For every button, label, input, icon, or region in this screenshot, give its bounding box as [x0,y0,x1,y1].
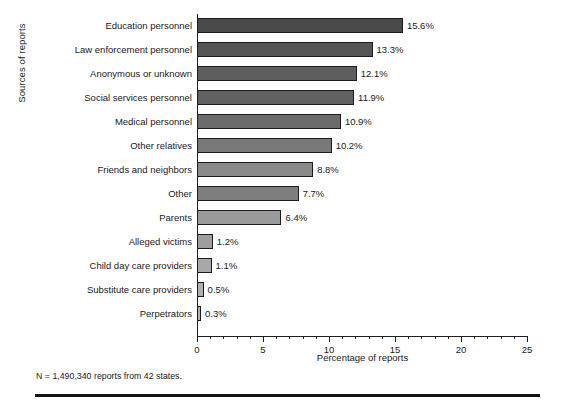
bar [197,282,204,297]
bar-value-label: 0.5% [204,282,230,297]
bar-value-label: 10.9% [341,114,372,129]
bar [197,234,213,249]
category-label: Other relatives [130,134,192,158]
bar [197,258,212,273]
category-label: Child day care providers [90,254,192,278]
bar [197,162,313,177]
category-label: Other [168,182,192,206]
y-axis-title: Sources of reports [11,0,33,143]
bar [197,114,341,129]
bar-value-label: 11.9% [354,90,384,105]
bar-value-label: 10.2% [332,138,363,153]
category-label: Education personnel [105,14,192,38]
x-tick-minor [303,336,304,339]
x-axis-title: Percentage of reports [197,352,528,363]
bar-value-label: 6.4% [281,210,307,225]
bar-value-label: 12.1% [357,66,388,81]
x-tick-major [395,336,396,342]
x-tick-minor [421,336,422,339]
x-tick-major [527,336,528,342]
bar [197,42,373,57]
bar [197,18,403,33]
x-tick-minor [223,336,224,339]
bar-value-label: 0.3% [201,306,227,321]
x-tick-minor [448,336,449,339]
x-tick-minor [435,336,436,339]
bottom-rule-divider [35,394,540,397]
x-tick-minor [514,336,515,339]
bar [197,138,332,153]
category-label: Perpetrators [140,302,192,326]
bar [197,66,357,81]
x-tick-minor [369,336,370,339]
x-tick-major [329,336,330,342]
x-tick-minor [250,336,251,339]
x-axis-line [197,336,528,337]
x-tick-major [461,336,462,342]
chart-figure: Sources of reports 15.6%13.3%12.1%11.9%1… [0,0,567,402]
bar-value-label: 7.7% [299,186,325,201]
bar-value-label: 8.8% [313,162,339,177]
x-tick-minor [342,336,343,339]
category-label: Medical personnel [115,110,192,134]
category-label: Substitute care providers [87,278,192,302]
x-tick-minor [355,336,356,339]
x-tick-major [197,336,198,342]
bar-value-label: 15.6% [403,18,434,33]
bar-value-label: 1.2% [213,234,239,249]
bar-value-label: 1.1% [212,258,238,273]
plot-area: 15.6%13.3%12.1%11.9%10.9%10.2%8.8%7.7%6.… [197,14,527,336]
x-tick-minor [408,336,409,339]
category-label: Parents [159,206,192,230]
x-tick-minor [382,336,383,339]
category-label: Anonymous or unknown [90,62,192,86]
x-tick-minor [474,336,475,339]
bar [197,210,281,225]
x-tick-minor [276,336,277,339]
category-label: Law enforcement personnel [75,38,192,62]
category-label: Alleged victims [129,230,192,254]
x-tick-minor [237,336,238,339]
x-tick-minor [289,336,290,339]
x-tick-major [263,336,264,342]
bar-value-label: 13.3% [373,42,404,57]
category-label: Social services personnel [84,86,192,110]
bar [197,186,299,201]
chart-footnote: N = 1,490,340 reports from 42 states. [36,371,182,381]
x-tick-minor [316,336,317,339]
x-tick-minor [501,336,502,339]
bar [197,90,354,105]
x-tick-minor [210,336,211,339]
x-tick-minor [487,336,488,339]
category-label: Friends and neighbors [97,158,192,182]
